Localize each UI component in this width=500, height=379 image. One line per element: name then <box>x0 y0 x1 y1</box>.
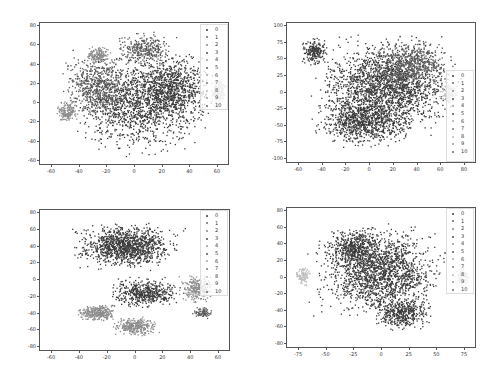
x-tick-mark <box>162 351 163 353</box>
x-tick-label: 0 <box>359 166 379 172</box>
y-tick-mark <box>37 246 39 247</box>
x-tick-label: 40 <box>407 166 427 172</box>
y-tick-mark <box>284 125 286 126</box>
x-tick-label: -20 <box>335 166 355 172</box>
legend-marker-icon <box>452 75 454 77</box>
legend-label: 2 <box>215 227 218 235</box>
x-tick-mark <box>381 348 382 350</box>
y-tick-mark <box>37 141 39 142</box>
x-tick-label: 0 <box>124 168 144 174</box>
y-tick-label: 60 <box>18 41 36 47</box>
x-tick-label: 0 <box>125 354 145 360</box>
legend-label: 9 <box>461 140 464 148</box>
y-tick-mark <box>37 83 39 84</box>
x-tick-label: 0 <box>371 351 391 357</box>
legend-label: 4 <box>215 242 218 250</box>
y-tick-label: -40 <box>265 307 283 313</box>
legend-label: 3 <box>461 233 464 241</box>
y-tick-label: -20 <box>18 118 36 124</box>
legend-marker-icon <box>452 98 454 100</box>
y-tick-mark <box>284 326 286 327</box>
legend-label: 6 <box>461 118 464 126</box>
y-tick-mark <box>37 262 39 263</box>
legend-item: 1 <box>449 80 471 88</box>
legend-label: 1 <box>215 220 218 228</box>
x-tick-mark <box>345 163 346 165</box>
y-tick-label: -80 <box>265 340 283 346</box>
legend-item: 8 <box>203 273 225 281</box>
y-tick-mark <box>284 158 286 159</box>
x-tick-mark <box>464 163 465 165</box>
legend-item: 4 <box>203 242 225 250</box>
legend-label: 7 <box>215 265 218 273</box>
legend-label: 0 <box>461 72 464 80</box>
legend-item: 0 <box>203 212 225 220</box>
x-tick-mark <box>298 163 299 165</box>
y-tick-mark <box>284 260 286 261</box>
x-tick-mark <box>51 165 52 167</box>
x-tick-label: 40 <box>180 354 200 360</box>
legend-marker-icon <box>206 36 208 38</box>
legend-marker-icon <box>206 283 208 285</box>
x-tick-label: 25 <box>399 351 419 357</box>
legend-marker-icon <box>452 105 454 107</box>
legend-label: 3 <box>215 49 218 57</box>
legend-marker-icon <box>452 258 454 260</box>
x-tick-mark <box>189 165 190 167</box>
y-tick-mark <box>284 343 286 344</box>
y-tick-mark <box>284 25 286 26</box>
legend-marker-icon <box>452 251 454 253</box>
x-tick-label: -40 <box>69 168 89 174</box>
x-tick-mark <box>217 165 218 167</box>
legend-label: 6 <box>461 256 464 264</box>
legend-item: 5 <box>203 64 225 72</box>
legend-label: 1 <box>461 218 464 226</box>
legend-label: 4 <box>461 102 464 110</box>
legend-marker-icon <box>452 136 454 138</box>
x-tick-label: 20 <box>383 166 403 172</box>
x-tick-mark <box>322 163 323 165</box>
y-tick-label: 60 <box>265 224 283 230</box>
legend-label: 3 <box>215 235 218 243</box>
legend-label: 0 <box>461 210 464 218</box>
y-tick-mark <box>37 160 39 161</box>
x-tick-label: -60 <box>41 168 61 174</box>
legend-item: 0 <box>203 26 225 34</box>
legend-label: 6 <box>215 258 218 266</box>
y-tick-label: -75 <box>265 138 283 144</box>
x-tick-mark <box>440 163 441 165</box>
y-tick-mark <box>37 121 39 122</box>
legend-label: 0 <box>215 26 218 34</box>
legend-item: 9 <box>449 278 471 286</box>
x-tick-label: 60 <box>207 168 227 174</box>
y-tick-label: -50 <box>265 122 283 128</box>
x-tick-mark <box>436 348 437 350</box>
legend-marker-icon <box>206 97 208 99</box>
y-tick-label: 40 <box>18 61 36 67</box>
y-tick-mark <box>284 210 286 211</box>
y-tick-mark <box>37 296 39 297</box>
legend-label: 7 <box>215 79 218 87</box>
x-tick-mark <box>298 348 299 350</box>
legend-label: 3 <box>461 95 464 103</box>
x-tick-mark <box>218 351 219 353</box>
legend-label: 8 <box>215 87 218 95</box>
y-tick-mark <box>284 277 286 278</box>
x-tick-label: 60 <box>208 354 228 360</box>
legend-marker-icon <box>452 90 454 92</box>
legend-item: 10 <box>449 286 471 294</box>
legend-label: 10 <box>461 148 467 156</box>
y-tick-label: -60 <box>18 326 36 332</box>
x-tick-label: 60 <box>430 166 450 172</box>
legend-marker-icon <box>206 268 208 270</box>
x-tick-mark <box>417 163 418 165</box>
legend-item: 1 <box>449 218 471 226</box>
legend-label: 4 <box>215 56 218 64</box>
x-tick-mark <box>135 351 136 353</box>
legend-item: 5 <box>449 248 471 256</box>
y-tick-label: 20 <box>265 257 283 263</box>
x-tick-mark <box>369 163 370 165</box>
y-tick-mark <box>37 346 39 347</box>
legend-label: 7 <box>461 263 464 271</box>
x-tick-label: -20 <box>96 168 116 174</box>
